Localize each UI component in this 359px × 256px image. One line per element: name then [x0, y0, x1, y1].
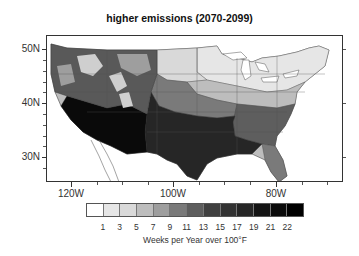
y-minor-tick	[43, 92, 46, 93]
colorbar-swatch	[170, 204, 187, 216]
x-minor-tick	[199, 182, 200, 185]
colorbar-tick-label: 5	[128, 222, 144, 232]
colorbar-tick-label: 13	[195, 222, 211, 232]
y-minor-tick	[43, 168, 46, 169]
y-tick	[42, 157, 47, 158]
x-minor-tick	[250, 182, 251, 185]
x-minor-tick	[148, 182, 149, 185]
colorbar-title: Weeks per Year over 100°F	[86, 235, 304, 245]
colorbar-swatch	[154, 204, 171, 216]
y-minor-tick	[43, 114, 46, 115]
y-minor-tick	[43, 82, 46, 83]
colorbar-swatch	[104, 204, 121, 216]
y-axis-label-40n: 40N	[8, 97, 40, 108]
x-tick	[173, 182, 174, 187]
colorbar-swatch	[237, 204, 254, 216]
colorbar-tick-label: 11	[179, 222, 195, 232]
colorbar-swatch	[187, 204, 204, 216]
colorbar-tick-label: 15	[212, 222, 228, 232]
y-minor-tick	[43, 136, 46, 137]
x-axis-label-100w: 100W	[153, 188, 193, 199]
region-florida	[262, 144, 287, 182]
x-minor-tick	[224, 182, 225, 185]
x-minor-tick	[327, 182, 328, 185]
colorbar-tick-label: 19	[246, 222, 262, 232]
y-minor-tick	[43, 146, 46, 147]
y-minor-tick-right	[343, 103, 346, 104]
colorbar-tick-label: 1	[95, 222, 111, 232]
y-minor-tick-right	[343, 49, 346, 50]
x-axis-label-80w: 80W	[256, 188, 296, 199]
y-minor-tick-right	[343, 157, 346, 158]
y-tick	[42, 49, 47, 50]
y-minor-tick	[43, 125, 46, 126]
x-axis-label-120w: 120W	[51, 188, 91, 199]
x-minor-tick	[122, 182, 123, 185]
colorbar-tick-label: 7	[145, 222, 161, 232]
y-tick	[42, 103, 47, 104]
y-axis-label-50n: 50N	[8, 43, 40, 54]
colorbar-swatch	[254, 204, 271, 216]
colorbar-tick-label: 17	[229, 222, 245, 232]
us-map	[47, 36, 343, 182]
colorbar-swatch	[87, 204, 104, 216]
x-tick	[276, 182, 277, 187]
colorbar-tick-label: 9	[162, 222, 178, 232]
colorbar-swatch	[137, 204, 154, 216]
colorbar-tick-label: 22	[279, 222, 295, 232]
colorbar	[86, 203, 304, 217]
y-minor-tick	[43, 60, 46, 61]
x-minor-tick	[302, 182, 303, 185]
y-axis-label-30n: 30N	[8, 151, 40, 162]
colorbar-swatch	[287, 204, 303, 216]
map-title: higher emissions (2070-2099)	[0, 12, 359, 24]
map-regions	[51, 44, 329, 182]
colorbar-swatch	[204, 204, 221, 216]
colorbar-tick-label: 21	[262, 222, 278, 232]
map-plot-area	[46, 35, 343, 182]
x-minor-tick	[97, 182, 98, 185]
colorbar-swatch	[120, 204, 137, 216]
y-minor-tick	[43, 71, 46, 72]
colorbar-swatch	[271, 204, 288, 216]
x-tick	[71, 182, 72, 187]
colorbar-tick-label: 3	[112, 222, 128, 232]
colorbar-swatch	[221, 204, 238, 216]
